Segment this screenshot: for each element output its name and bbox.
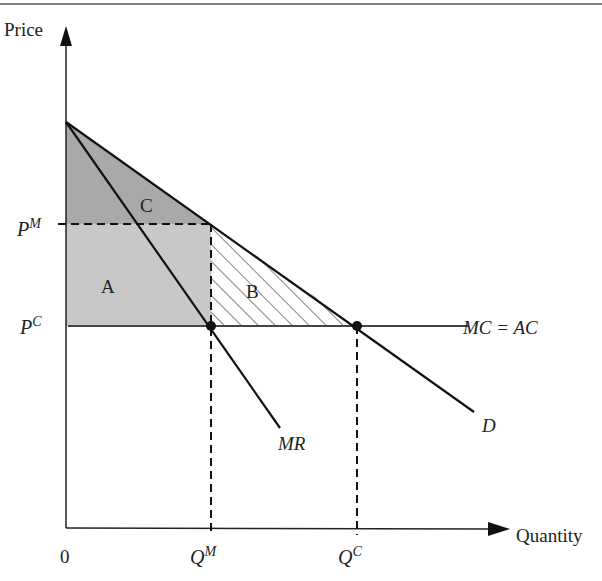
mr-label: MR: [277, 433, 306, 454]
monopoly-deadweight-loss-chart: Price Quantity 0 PM PC QM QC C A B MC = …: [0, 0, 602, 581]
region-b-label: B: [246, 281, 259, 302]
region-a: [66, 224, 211, 326]
monopoly-point: [206, 321, 216, 331]
demand-label: D: [481, 415, 496, 436]
y-axis-arrow-icon: [60, 26, 72, 46]
x-axis-arrow-icon: [488, 522, 510, 536]
qm-label: QM: [190, 544, 217, 568]
region-a-label: A: [101, 276, 115, 297]
competitive-point: [352, 321, 362, 331]
pm-label: PM: [16, 216, 42, 240]
mc-ac-label: MC = AC: [462, 317, 538, 338]
y-axis-label: Price: [4, 19, 43, 40]
origin-label: 0: [60, 546, 70, 567]
qc-label: QC: [338, 544, 362, 568]
x-axis: [66, 528, 492, 529]
region-c-label: C: [140, 195, 153, 216]
x-axis-label: Quantity: [516, 525, 583, 546]
pc-label: PC: [19, 314, 42, 338]
